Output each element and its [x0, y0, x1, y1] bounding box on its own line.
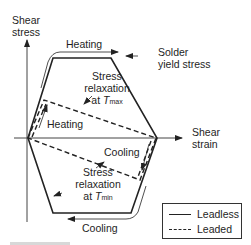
relax-max-line2: relaxation: [74, 82, 140, 94]
cooling-inner-label: Cooling: [104, 146, 140, 158]
relax-max-line1: Stress: [74, 70, 140, 82]
relax-min-line1: Stress: [66, 166, 130, 178]
relax-min-line2: relaxation: [66, 178, 130, 190]
legend-label-leadless: Leadless: [197, 208, 239, 220]
heating-top-label: Heating: [66, 38, 102, 50]
x-axis-label: Shear strain: [192, 126, 220, 150]
x-axis-label-line2: strain: [192, 138, 220, 150]
solder-yield-label: Solder yield stress: [158, 46, 211, 70]
heating-inner-label: Heating: [47, 118, 83, 130]
legend-item-leadless: Leadless: [169, 207, 239, 221]
dashed-line-icon: [169, 229, 191, 230]
relax-min-label: Stress relaxation at Tmin: [66, 166, 130, 204]
solder-yield-line1: Solder: [158, 46, 211, 58]
legend: Leadless Leaded: [162, 203, 242, 239]
relax-max-label: Stress relaxation at Tmax: [74, 70, 140, 108]
relax-min-line3: at Tmin: [66, 190, 130, 204]
y-axis-label: Shear stress: [12, 14, 40, 38]
legend-label-leaded: Leaded: [197, 223, 232, 235]
cooling-bottom-label: Cooling: [82, 222, 118, 234]
legend-item-leaded: Leaded: [169, 222, 232, 236]
solid-line-icon: [169, 214, 191, 215]
relax-min-pointer-2: [54, 193, 62, 196]
y-axis-label-line1: Shear: [12, 14, 40, 26]
heating-inner-arrow: [39, 105, 47, 128]
solder-yield-line2: yield stress: [158, 58, 211, 70]
y-axis-label-line2: stress: [12, 26, 40, 38]
relax-max-line3: at Tmax: [74, 94, 140, 108]
x-axis-label-line1: Shear: [192, 126, 220, 138]
